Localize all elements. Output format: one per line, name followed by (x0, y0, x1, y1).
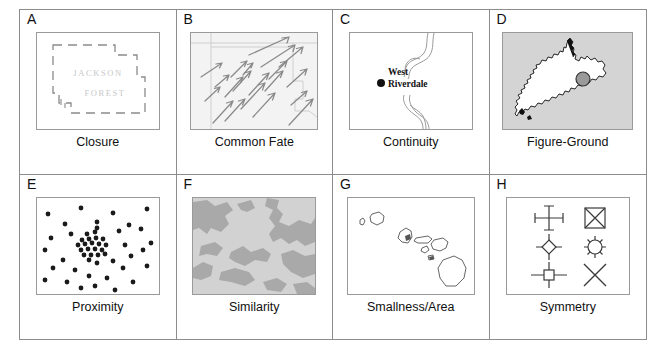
caption-proximity: Proximity (72, 301, 123, 314)
hawaiian-islands (360, 212, 466, 286)
panel-closure: A JACKSON FOREST Closure (20, 10, 177, 175)
panel-letter-h: H (497, 177, 507, 191)
common-fate-svg (191, 33, 317, 129)
panel-smallness-area: G Smallness/Area (333, 175, 490, 340)
caption-figure-ground: Figure-Ground (527, 136, 608, 149)
forest-label-line2: FOREST (84, 88, 125, 98)
similarity-graphic (192, 197, 316, 295)
closure-graphic: JACKSON FOREST (36, 32, 160, 130)
panel-letter-c: C (340, 12, 350, 26)
symbol-diamond-with-cross-arms (536, 234, 562, 260)
panel-figure-ground: D Figure-Ground (490, 10, 647, 175)
panel-letter-a: A (27, 12, 36, 26)
forest-label-line1: JACKSON (73, 68, 122, 78)
island-niihau (360, 218, 365, 225)
caption-common-fate: Common Fate (215, 136, 294, 149)
hawaii-svg (348, 198, 474, 294)
symbol-cross-with-square-center (531, 262, 567, 288)
panel-proximity: E (20, 175, 177, 340)
symmetry-graphic (506, 197, 630, 295)
symbol-square-with-x (585, 208, 605, 228)
island-molokai (414, 236, 432, 243)
similarity-svg (193, 198, 315, 294)
gestalt-principles-figure: A JACKSON FOREST Closure B (19, 9, 647, 340)
capital-circle-symbol (576, 72, 590, 86)
city-label-line1: West (388, 67, 409, 77)
continuity-graphic: West Riverdale (349, 32, 473, 130)
symbol-sunburst-circle (584, 236, 606, 258)
boundary-tick-marks (61, 99, 65, 108)
caption-symmetry: Symmetry (540, 301, 596, 314)
caption-closure: Closure (76, 136, 119, 149)
caption-smallness-area: Smallness/Area (367, 301, 455, 314)
panel-letter-f: F (184, 177, 193, 191)
symbol-cross-with-endcaps (535, 206, 563, 230)
panel-letter-g: G (340, 177, 351, 191)
smallness-graphic (347, 197, 475, 295)
proximity-svg (37, 198, 159, 294)
symbol-saltire-x (584, 264, 606, 286)
figure-ground-svg (503, 33, 632, 129)
symmetry-svg (507, 198, 629, 294)
caption-continuity: Continuity (383, 136, 439, 149)
island-lanai (421, 246, 429, 253)
panel-symmetry: H (490, 175, 647, 340)
panel-continuity: C West Riverdale Continuity (333, 10, 490, 175)
city-dot-marker (377, 79, 385, 87)
common-fate-graphic (190, 32, 318, 130)
panel-common-fate: B (177, 10, 334, 175)
clustered-dots (75, 225, 108, 262)
caption-similarity: Similarity (229, 301, 280, 314)
city-label-line2: Riverdale (388, 79, 428, 89)
closure-svg: JACKSON FOREST (37, 33, 159, 129)
proximity-graphic (36, 197, 160, 295)
panel-letter-b: B (184, 12, 193, 26)
island-kauai (370, 212, 384, 225)
panel-letter-d: D (497, 12, 507, 26)
figure-ground-graphic (502, 32, 633, 130)
panel-similarity: F Similarity (177, 175, 334, 340)
island-maui (431, 238, 448, 251)
panel-letter-e: E (27, 177, 36, 191)
continuity-svg: West Riverdale (350, 33, 472, 129)
island-hawaii (438, 256, 466, 286)
scattered-dots (42, 205, 153, 292)
forest-boundary-dashed (53, 45, 145, 113)
